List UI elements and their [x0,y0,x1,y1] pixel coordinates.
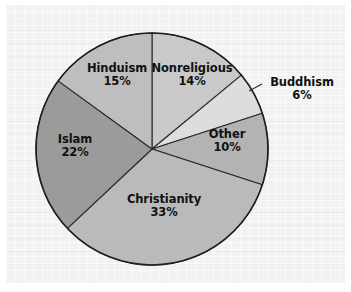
pie-label-christianity-name: Christianity [127,192,201,206]
pie-label-islam-name: Islam [58,132,92,146]
pie-label-other-value: 10% [196,141,258,154]
pie-label-nonreligious-name: Nonreligious [152,61,233,75]
pie-label-christianity-value: 33% [112,206,216,219]
pie-label-nonreligious: Nonreligious 14% [144,62,240,88]
pie-label-buddhism-name: Buddhism [270,75,334,89]
pie-chart-figure: Nonreligious 14% Buddhism 6% Other 10% C… [0,0,351,292]
pie-label-nonreligious-value: 14% [144,75,240,88]
pie-label-buddhism-value: 6% [258,89,346,102]
pie-label-other-name: Other [209,127,245,141]
pie-label-hinduism-name: Hinduism [87,61,147,75]
pie-label-buddhism: Buddhism 6% [258,76,346,102]
pie-label-hinduism-value: 15% [78,75,156,88]
pie-label-islam-value: 22% [44,146,106,159]
pie-label-hinduism: Hinduism 15% [78,62,156,88]
pie-label-christianity: Christianity 33% [112,193,216,219]
pie-label-islam: Islam 22% [44,133,106,159]
pie-label-other: Other 10% [196,128,258,154]
